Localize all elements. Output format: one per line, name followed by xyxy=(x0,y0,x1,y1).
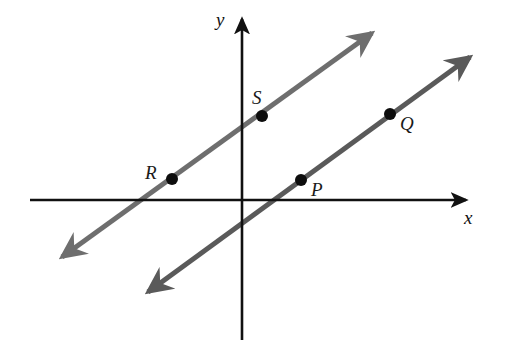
point-dot-P xyxy=(295,174,307,186)
line-RS xyxy=(62,33,372,257)
geometry-figure: S R P Q x y xyxy=(0,0,509,354)
x-axis-label: x xyxy=(464,208,472,227)
y-axis-label: y xyxy=(216,10,224,29)
point-dot-R xyxy=(166,173,178,185)
figure-canvas xyxy=(0,0,509,354)
point-label-Q: Q xyxy=(400,114,414,133)
line-PQ xyxy=(148,57,470,292)
point-dot-Q xyxy=(384,108,396,120)
point-label-P: P xyxy=(311,180,323,199)
point-dot-S xyxy=(256,110,268,122)
point-label-R: R xyxy=(145,163,157,182)
point-label-S: S xyxy=(252,88,262,107)
